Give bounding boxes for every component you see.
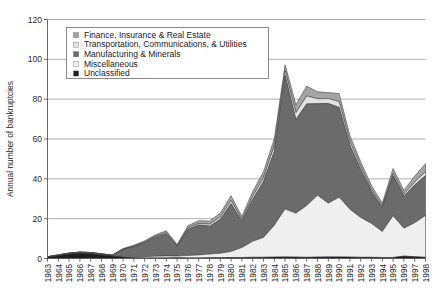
x-tick-label: 1967 — [87, 264, 96, 283]
x-tick-label: 1965 — [65, 264, 74, 283]
x-tick-label: 1989 — [325, 264, 334, 283]
y-tick-label: 40 — [32, 174, 42, 184]
y-tick-label: 60 — [32, 134, 42, 144]
x-tick-label: 1997 — [411, 264, 420, 283]
x-tick-label: 1980 — [227, 264, 236, 283]
x-tick-label: 1971 — [130, 264, 139, 283]
x-tick-label: 1979 — [217, 264, 226, 283]
legend-swatch-1 — [74, 33, 79, 38]
y-tick-label: 120 — [28, 15, 43, 25]
x-tick-label: 1983 — [260, 264, 269, 283]
x-tick-label: 1973 — [152, 264, 161, 283]
x-tick-label: 1972 — [141, 264, 150, 283]
chart-figure: 020406080100120 196319641965196619671968… — [0, 0, 437, 295]
x-tick-label: 1969 — [109, 264, 118, 283]
y-axis-ticks: 020406080100120 — [28, 15, 48, 264]
y-tick-label: 0 — [37, 254, 42, 264]
y-axis-label: Annual number of bankruptcies — [5, 81, 15, 197]
legend-label-2: Transportation, Communications, & Utilit… — [84, 39, 247, 49]
x-axis-ticks: 1963196419651966196719681969197019711972… — [44, 259, 431, 283]
x-tick-label: 1987 — [303, 264, 312, 283]
x-tick-label: 1994 — [379, 264, 388, 283]
y-tick-label: 20 — [32, 214, 42, 224]
x-tick-label: 1996 — [400, 264, 409, 283]
stacked-areas — [48, 65, 426, 259]
chart-legend: Finance, Insurance & Real EstateTranspor… — [67, 28, 269, 79]
x-tick-label: 1988 — [314, 264, 323, 283]
legend-label-3: Manufacturing & Minerals — [84, 49, 180, 59]
x-tick-label: 1990 — [335, 264, 344, 283]
x-tick-label: 1978 — [206, 264, 215, 283]
legend-label-4: Miscellaneous — [84, 59, 138, 69]
legend-swatch-4 — [74, 61, 79, 66]
x-tick-label: 1964 — [55, 264, 64, 283]
x-tick-label: 1974 — [163, 264, 172, 283]
x-tick-label: 1984 — [271, 264, 280, 283]
y-tick-label: 100 — [28, 54, 43, 64]
x-tick-label: 1995 — [389, 264, 398, 283]
legend-swatch-2 — [74, 42, 79, 47]
x-tick-label: 1992 — [357, 264, 366, 283]
x-tick-label: 1968 — [98, 264, 107, 283]
y-tick-label: 80 — [32, 94, 42, 104]
x-tick-label: 1976 — [184, 264, 193, 283]
x-tick-label: 1981 — [238, 264, 247, 283]
x-tick-label: 1970 — [119, 264, 128, 283]
x-tick-label: 1986 — [292, 264, 301, 283]
x-tick-label: 1991 — [346, 264, 355, 283]
x-tick-label: 1977 — [195, 264, 204, 283]
x-tick-label: 1985 — [281, 264, 290, 283]
x-tick-label: 1993 — [368, 264, 377, 283]
x-tick-label: 1963 — [44, 264, 53, 283]
legend-label-5: Unclassified — [84, 68, 130, 78]
legend-swatch-3 — [74, 52, 79, 57]
x-tick-label: 1982 — [249, 264, 258, 283]
legend-swatch-5 — [74, 71, 79, 76]
y-axis-title: Annual number of bankruptcies — [5, 81, 15, 197]
x-tick-label: 1966 — [76, 264, 85, 283]
area-chart: 020406080100120 196319641965196619671968… — [0, 0, 437, 295]
x-tick-label: 1975 — [173, 264, 182, 283]
legend-label-1: Finance, Insurance & Real Estate — [84, 30, 211, 40]
x-tick-label: 1998 — [422, 264, 431, 283]
